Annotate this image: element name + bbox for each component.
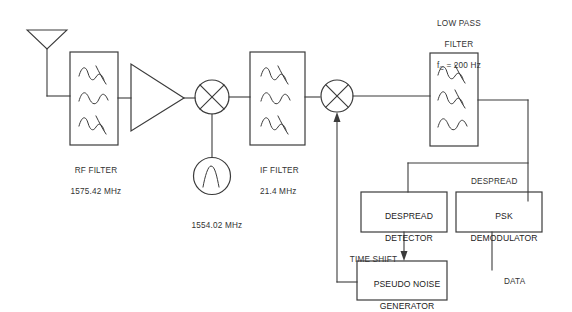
if-filter-label: IF FILTER 21.4 MHz (250, 155, 330, 208)
mixer1-circle-x-icon (195, 80, 229, 114)
psk-demodulator-label: PSK DEMODULATOR (456, 200, 542, 255)
lpf-cutoff-value: = 200 Hz (444, 61, 481, 70)
despread-detector-line2: DETECTOR (385, 233, 433, 243)
if-filter-label-name: IF FILTER (260, 166, 299, 175)
psk-demodulator-line2: DEMODULATOR (470, 233, 537, 243)
antenna-dipole-icon (27, 30, 70, 96)
rf-filter-box (70, 52, 118, 145)
png-line1: PSEUDO NOISE (374, 279, 441, 289)
amplifier-triangle-icon (131, 64, 184, 131)
rf-filter-value: 1575.42 MHz (71, 187, 122, 196)
block-diagram: RF FILTER 1575.42 MHz 1554.02 MHz IF FIL… (0, 0, 572, 312)
bandpass-filter-waves-icon (79, 66, 108, 134)
rf-filter-label-name: RF FILTER (75, 166, 118, 175)
oscillator-label: 1554.02 MHz (172, 210, 252, 242)
oscillator-frequency: 1554.02 MHz (192, 221, 243, 230)
oscillator-circle-sine-icon (194, 158, 231, 195)
lpf-cutoff: fC = 200 Hz (437, 61, 481, 70)
lpf-label-line2: FILTER (445, 40, 474, 49)
rf-filter-label: RF FILTER 1575.42 MHz (46, 155, 136, 208)
lpf-label-line1: LOW PASS (437, 19, 481, 28)
png-line2: GENERATOR (380, 301, 435, 311)
data-label-text: DATA (504, 277, 525, 286)
despread-detector-line1: DESPREAD (385, 211, 433, 221)
if-bandpass-filter-waves-icon (261, 66, 290, 134)
despread-label-text: DESPREAD (471, 177, 518, 186)
despread-signal-label: DESPREAD (461, 166, 531, 198)
time-shift-label-text: TIME SHIFT (350, 255, 397, 264)
low-pass-filter-label: LOW PASS FILTER fC = 200 Hz (404, 8, 504, 84)
data-signal-label: DATA (494, 266, 534, 298)
if-filter-value: 21.4 MHz (260, 187, 297, 196)
mixer2-circle-x-icon (321, 80, 353, 112)
psk-demodulator-line1: PSK (495, 211, 513, 221)
time-shift-signal-label: TIME SHIFT (340, 244, 406, 276)
